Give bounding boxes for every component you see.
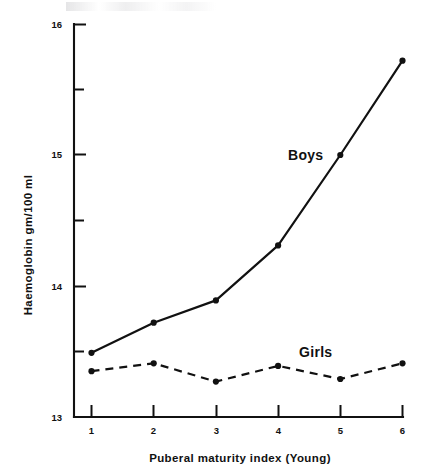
y-axis-title: Haemoglobin gm/100 ml bbox=[22, 175, 34, 316]
data-point bbox=[151, 360, 157, 366]
x-tick-label-4: 4 bbox=[276, 425, 282, 436]
series-boys bbox=[88, 58, 405, 356]
data-point bbox=[275, 242, 281, 248]
x-tick-label-5: 5 bbox=[338, 425, 344, 436]
y-tick-label-16: 16 bbox=[51, 19, 62, 30]
y-tick-label-15: 15 bbox=[51, 149, 62, 160]
x-axis-title: Puberal maturity index (Young) bbox=[149, 452, 331, 464]
boys-markers bbox=[88, 58, 405, 356]
data-point bbox=[399, 360, 405, 366]
x-tick-label-1: 1 bbox=[89, 425, 95, 436]
series-girls bbox=[88, 360, 405, 385]
x-tick-label-6: 6 bbox=[400, 425, 405, 436]
y-tick-labels: 16 15 14 13 bbox=[51, 19, 62, 423]
chart-canvas: 16 15 14 13 1 2 3 4 5 6 Boys Girls Puber… bbox=[0, 0, 423, 470]
x-axis bbox=[74, 405, 403, 417]
series-label-boys: Boys bbox=[288, 147, 323, 163]
y-tick-label-14: 14 bbox=[51, 281, 62, 292]
data-point bbox=[399, 58, 405, 64]
y-axis bbox=[74, 24, 86, 417]
data-point bbox=[213, 297, 219, 303]
data-point bbox=[337, 376, 343, 382]
data-point bbox=[213, 379, 219, 385]
x-tick-label-2: 2 bbox=[151, 425, 156, 436]
series-label-girls: Girls bbox=[299, 344, 332, 360]
data-point bbox=[151, 320, 157, 326]
y-tick-label-13: 13 bbox=[51, 412, 62, 423]
girls-markers bbox=[88, 360, 405, 385]
data-point bbox=[88, 368, 94, 374]
x-tick-label-3: 3 bbox=[214, 425, 219, 436]
data-point bbox=[275, 363, 281, 369]
haemoglobin-puberal-maturity-chart: 16 15 14 13 1 2 3 4 5 6 Boys Girls Puber… bbox=[0, 0, 423, 470]
girls-line bbox=[92, 363, 403, 381]
x-tick-labels: 1 2 3 4 5 6 bbox=[89, 425, 405, 436]
data-point bbox=[88, 350, 94, 356]
data-point bbox=[337, 152, 343, 158]
boys-line bbox=[92, 61, 403, 353]
